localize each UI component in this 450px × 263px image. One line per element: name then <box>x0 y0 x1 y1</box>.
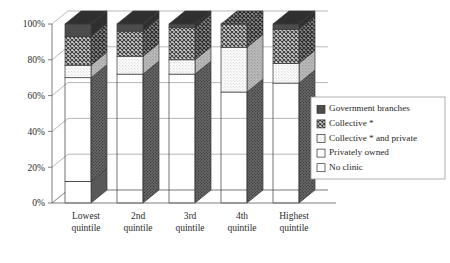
bar-segment-front <box>221 24 247 47</box>
bar-segment-front <box>117 56 143 74</box>
bar-segment-side <box>247 79 263 203</box>
x-axis-category-label: quintile <box>227 223 256 233</box>
bar-segment-front <box>169 28 195 60</box>
y-axis-tick-label: 40% <box>28 127 46 137</box>
bar-segment-side <box>195 61 211 203</box>
bar-segment-front <box>273 29 299 63</box>
bar-column <box>117 11 159 203</box>
bar-segment-front <box>65 65 91 78</box>
gridline-depth-connector <box>52 83 68 96</box>
bar-segment-front <box>65 24 91 37</box>
legend-item-label: Collective * and private <box>329 133 417 143</box>
bars-group <box>65 11 315 203</box>
legend-item-label: No clinic <box>329 162 363 172</box>
bar-segment-front <box>273 83 299 203</box>
bar-segment-front <box>221 47 247 92</box>
bar-segment-front <box>65 78 91 182</box>
x-axis-category-label: quintile <box>279 223 308 233</box>
bar-segment-side <box>143 61 159 203</box>
y-axis-tick-label: 0% <box>32 198 45 208</box>
y-axis-tick-label: 20% <box>28 163 46 173</box>
bar-segment-front <box>273 24 299 29</box>
bar-column <box>65 11 107 203</box>
legend-swatch <box>317 120 325 128</box>
legend-swatch <box>317 164 325 172</box>
legend-item-label: Government branches <box>329 103 410 113</box>
bar-segment-front <box>221 92 247 203</box>
chart-container: 0%20%40%60%80%100% Lowestquintile2ndquin… <box>0 0 450 263</box>
legend-item-label: Privately owned <box>329 147 389 157</box>
y-axis-ticks: 0%20%40%60%80%100% <box>23 19 52 208</box>
x-axis-category-label: 2nd <box>131 211 146 221</box>
y-axis-tick-label: 80% <box>28 55 46 65</box>
bar-segment-front <box>117 74 143 203</box>
bar-segment-front <box>169 24 195 28</box>
bar-column <box>273 11 315 203</box>
bar-column <box>169 11 211 203</box>
bar-segment-front <box>169 60 195 74</box>
x-axis-category-label: 4th <box>236 211 248 221</box>
bar-segment-front <box>65 37 91 66</box>
bar-column <box>221 11 263 203</box>
legend-swatch <box>317 105 325 113</box>
bar-segment-side <box>91 65 107 182</box>
x-axis-category-label: 3rd <box>184 211 197 221</box>
gridline-depth-connector <box>52 154 68 167</box>
bar-segment-front <box>117 31 143 56</box>
x-axis-category-label: quintile <box>123 223 152 233</box>
x-axis-category-label: quintile <box>71 223 100 233</box>
bar-segment-front <box>65 182 91 203</box>
x-axis-category-label: Lowest <box>72 211 100 221</box>
bar-segment-front <box>117 24 143 31</box>
y-axis-tick-label: 100% <box>23 19 45 29</box>
x-axis-category-label: quintile <box>175 223 204 233</box>
x-axis-category-label: Highest <box>279 211 309 221</box>
legend-item-label: Collective * <box>329 118 374 128</box>
gridline-depth-connector <box>52 11 68 24</box>
x-axis-category-labels: Lowestquintile2ndquintile3rdquintile4thq… <box>71 211 309 233</box>
chart-legend: Government branchesCollective *Collectiv… <box>311 97 445 179</box>
legend-swatch <box>317 135 325 143</box>
bar-segment-front <box>169 74 195 203</box>
gridline-depth-connector <box>52 118 68 131</box>
y-axis-tick-label: 60% <box>28 91 46 101</box>
bar-segment-front <box>273 63 299 83</box>
stacked-column-chart: 0%20%40%60%80%100% Lowestquintile2ndquin… <box>0 0 450 263</box>
